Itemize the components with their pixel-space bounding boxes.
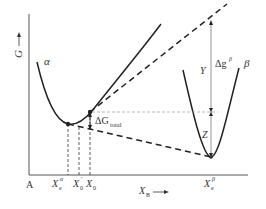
tick-xe-alpha: X e α <box>51 176 64 191</box>
svg-text:0: 0 <box>93 185 96 191</box>
y-label: Y <box>200 65 207 76</box>
svg-text:X: X <box>51 178 59 189</box>
delta-g-beta-label: Δg β <box>215 56 232 69</box>
svg-text:B: B <box>146 192 150 198</box>
svg-text:e: e <box>211 185 214 191</box>
svg-text:G: G <box>12 50 24 58</box>
svg-text:total: total <box>110 121 122 128</box>
svg-text:e: e <box>59 185 62 191</box>
svg-text:′: ′ <box>81 175 83 183</box>
svg-text:X: X <box>203 178 211 189</box>
svg-text:X: X <box>138 185 146 196</box>
alpha-equilibrium-point <box>66 122 70 126</box>
beta-label: β <box>243 57 250 69</box>
x0-tangent-point <box>88 110 92 114</box>
svg-text:X: X <box>72 178 80 189</box>
tick-xe-beta: X e β <box>203 176 215 191</box>
svg-text:0: 0 <box>80 185 83 191</box>
alpha-curve <box>37 24 161 124</box>
g-axis-label: G <box>12 32 24 58</box>
svg-text:α: α <box>60 176 64 182</box>
svg-text:β: β <box>228 56 232 62</box>
tangent-at-x0-line <box>90 4 227 112</box>
svg-text:X: X <box>85 178 93 189</box>
svg-text:Δg: Δg <box>215 58 226 69</box>
free-energy-diagram: G α β ΔG total Δg β Y Z A X e <box>0 0 266 209</box>
z-label: Z <box>202 129 208 140</box>
delta-g-total-label: ΔG total <box>95 115 122 128</box>
svg-text:β: β <box>211 176 215 182</box>
origin-label: A <box>26 179 34 190</box>
tick-x0-prime: X 0 ′ <box>72 175 83 191</box>
common-tangent-line <box>68 124 211 157</box>
alpha-label: α <box>44 55 50 67</box>
tick-x0: X 0 <box>85 178 96 191</box>
x-axis-label: X B <box>138 185 169 198</box>
svg-text:ΔG: ΔG <box>95 115 109 126</box>
